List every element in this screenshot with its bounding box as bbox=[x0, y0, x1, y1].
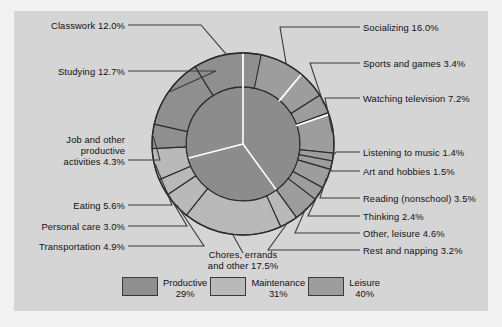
label-chores-line1: Chores, errands bbox=[168, 249, 318, 261]
label-rest-and-napping: Rest and napping 3.2% bbox=[363, 245, 463, 257]
label-eating: Eating 5.6% bbox=[10, 200, 125, 212]
label-other-leisure: Other, leisure 4.6% bbox=[363, 228, 445, 240]
legend-text-maintenance: Maintenance 31% bbox=[251, 277, 305, 299]
chart-legend: Productive 29% Maintenance 31% Leisure 4… bbox=[122, 277, 380, 307]
leader-line bbox=[331, 165, 361, 171]
label-reading-nonschool: Reading (nonschool) 3.5% bbox=[363, 193, 476, 205]
legend-text-productive: Productive 29% bbox=[163, 277, 207, 299]
label-job-line3: activities 4.3% bbox=[10, 156, 125, 168]
legend-label-leisure: Leisure bbox=[349, 277, 380, 288]
label-listening-to-music: Listening to music 1.4% bbox=[363, 147, 464, 159]
label-studying: Studying 12.7% bbox=[10, 66, 125, 78]
chart-page: Classwork 12.0% Studying 12.7% Job and o… bbox=[0, 0, 502, 327]
legend-swatch-productive bbox=[122, 277, 158, 296]
leader-line bbox=[332, 152, 360, 157]
legend-text-leisure: Leisure 40% bbox=[349, 277, 380, 299]
legend-item-leisure: Leisure 40% bbox=[308, 277, 380, 299]
leader-line bbox=[280, 27, 360, 65]
legend-label-productive: Productive bbox=[163, 277, 207, 288]
label-art-and-hobbies: Art and hobbies 1.5% bbox=[363, 166, 455, 178]
label-personal-care: Personal care 3.0% bbox=[10, 221, 125, 233]
legend-percent-leisure: 40% bbox=[349, 288, 380, 299]
legend-label-maintenance: Maintenance bbox=[251, 277, 305, 288]
label-socializing: Socializing 16.0% bbox=[363, 22, 439, 34]
legend-item-maintenance: Maintenance 31% bbox=[210, 277, 305, 299]
label-sports-and-games: Sports and games 3.4% bbox=[363, 58, 465, 70]
label-classwork: Classwork 12.0% bbox=[10, 20, 125, 32]
legend-swatch-maintenance bbox=[210, 277, 246, 296]
leader-line bbox=[128, 25, 227, 55]
label-job-line2: productive bbox=[10, 145, 125, 157]
label-thinking: Thinking 2.4% bbox=[363, 211, 424, 223]
label-watching-television: Watching television 7.2% bbox=[363, 93, 470, 105]
leader-line bbox=[295, 208, 360, 233]
label-job-line1: Job and other bbox=[10, 134, 125, 146]
legend-percent-maintenance: 31% bbox=[251, 288, 305, 299]
legend-item-productive: Productive 29% bbox=[122, 277, 207, 299]
label-transportation: Transportation 4.9% bbox=[6, 241, 125, 253]
legend-percent-productive: 29% bbox=[163, 288, 207, 299]
legend-swatch-leisure bbox=[308, 277, 344, 296]
label-chores-line2: and other 17.5% bbox=[168, 260, 318, 272]
